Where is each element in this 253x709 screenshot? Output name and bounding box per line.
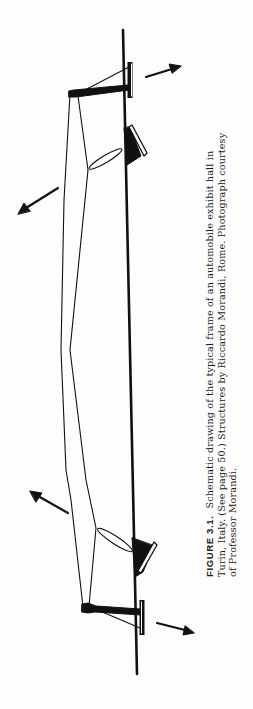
caption-line-1: FIGURE 3.1.Schematic drawing of the typi… xyxy=(204,97,216,577)
figure-label: FIGURE 3.1. xyxy=(204,515,215,577)
arrow-top-right-icon xyxy=(146,64,181,77)
book-page: FIGURE 3.1.Schematic drawing of the typi… xyxy=(0,0,253,709)
arrow-top-left-icon xyxy=(18,188,58,214)
top-ellipse-strut xyxy=(87,146,123,172)
caption-text-1: Schematic drawing of the typical frame o… xyxy=(204,151,215,509)
caption-line-2: Turin, Italy. (See page 50.) Structures … xyxy=(216,97,228,577)
arch-outer-line xyxy=(61,94,83,607)
figure-caption: FIGURE 3.1.Schematic drawing of the typi… xyxy=(204,97,239,577)
bottom-ellipse-strut xyxy=(96,526,135,555)
caption-line-3: of Professor Morandi. xyxy=(227,97,239,577)
arrow-bottom-right-icon xyxy=(157,623,194,635)
arrow-bottom-left-icon xyxy=(30,491,68,513)
top-wedge-bearing xyxy=(124,125,147,165)
bottom-wedge-bearing xyxy=(132,538,157,577)
